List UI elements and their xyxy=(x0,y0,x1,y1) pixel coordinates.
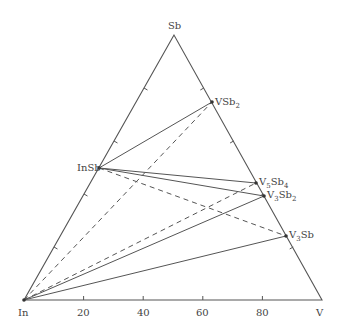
tie-line-In-V3Sb2 xyxy=(24,196,264,300)
vertex-label-V: V xyxy=(315,307,324,318)
tick-label-40: 40 xyxy=(137,307,150,318)
right-edge-ticks xyxy=(200,88,293,249)
vertex-label-In: In xyxy=(18,307,29,318)
tie-line-InSb-V3Sb xyxy=(99,168,286,236)
tick-label-60: 60 xyxy=(196,307,209,318)
phase-points xyxy=(22,100,288,302)
ternary-diagram: Sb In V 20 40 60 80 InSb VSb2 V5Sb4 V3Sb… xyxy=(0,0,341,335)
tie-line-In-V3Sb xyxy=(24,236,286,300)
phase-label-InSb: InSb xyxy=(77,162,101,173)
tie-line-InSb-V5Sb4 xyxy=(99,168,256,183)
tie-line-In-V5Sb4 xyxy=(24,183,256,300)
point-In xyxy=(22,298,26,302)
point-V3Sb xyxy=(284,234,288,238)
point-V3Sb2 xyxy=(262,194,266,198)
tie-line-In-VSb2 xyxy=(24,102,212,300)
point-VSb2 xyxy=(210,100,214,104)
tick-label-80: 80 xyxy=(256,307,269,318)
tie-line-InSb-V3Sb2 xyxy=(99,168,264,196)
tick-label-20: 20 xyxy=(77,307,90,318)
phase-label-V3Sb2: V3Sb2 xyxy=(266,189,296,203)
bottom-ticks xyxy=(84,296,263,300)
triangle-outline xyxy=(24,35,322,300)
phase-label-V5Sb4: V5Sb4 xyxy=(258,176,289,190)
phase-label-V3Sb: V3Sb xyxy=(288,229,314,243)
phase-label-VSb2: VSb2 xyxy=(214,96,240,110)
vertex-label-Sb: Sb xyxy=(168,20,181,31)
point-V5Sb4 xyxy=(254,181,258,185)
tie-line-InSb-VSb2 xyxy=(99,102,212,168)
tie-lines xyxy=(24,102,286,300)
